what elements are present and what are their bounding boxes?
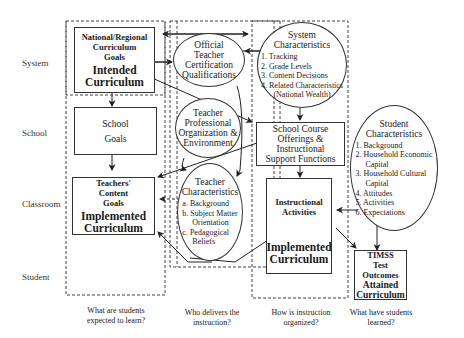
node-label: Implemented <box>266 241 331 253</box>
teacher-professional-organization-ellipse: Teacher Professional Organization & Envi… <box>175 98 241 158</box>
list-item: Orientation <box>182 218 237 228</box>
node-text: TIMSS <box>367 250 393 260</box>
row-label-classroom: Classroom <box>22 199 61 209</box>
list-item: a. Background <box>182 199 237 209</box>
list-item: Beliefs <box>182 237 237 247</box>
node-text: System <box>288 30 316 40</box>
node-text: Teachers' <box>96 178 131 188</box>
node-label: Curriculum <box>85 76 144 88</box>
node-text: Instructional <box>276 144 324 154</box>
system-characteristics-ellipse: System Characteristics 1. Tracking 2. Gr… <box>257 22 347 108</box>
node-text: Teacher <box>194 50 224 60</box>
node-text: Offerings & <box>278 134 324 144</box>
list-item: Capital <box>355 179 432 189</box>
node-text: Professional <box>185 118 232 128</box>
student-characteristics-list: 1. Background 2. Household Economic Capi… <box>355 141 432 218</box>
list-item: 4. Attitudes <box>355 189 432 199</box>
list-item: (National Wealth) <box>261 90 343 100</box>
list-item: 3. Household Cultural <box>355 169 432 179</box>
system-characteristics-list: 1. Tracking 2. Grade Levels 3. Content D… <box>261 52 343 100</box>
node-text: School Course <box>273 124 329 134</box>
timss-test-outcomes-box: TIMSS Test Outcomes Attained Curriculum <box>354 250 407 300</box>
row-label-student: Student <box>22 272 50 282</box>
list-item: 2. Grade Levels <box>261 62 343 72</box>
question-intended: What are students expected to learn? <box>78 306 154 326</box>
node-text: School <box>102 119 128 129</box>
teachers-content-goals-box: Teachers' Content Goals Implemented Curr… <box>72 177 155 235</box>
node-text: Certification <box>185 60 233 70</box>
node-label: Intended <box>92 64 136 76</box>
list-item: 2. Household Economic <box>355 150 432 160</box>
node-text: Instructional <box>275 197 322 207</box>
node-text: Characteristics <box>274 40 330 50</box>
list-item: 6. Expectations <box>355 208 432 218</box>
node-text: Characteristics <box>366 129 422 139</box>
node-text: Goals <box>104 52 125 62</box>
node-label: Curriculum <box>270 253 329 265</box>
node-text: Test <box>373 260 388 270</box>
list-item: 5. Activities <box>355 198 432 208</box>
node-text: Goals <box>104 134 126 144</box>
node-text: Organization & <box>178 128 237 138</box>
node-label: Curriculum <box>84 222 143 234</box>
question-organized: How is instruction organized? <box>266 308 336 328</box>
instructional-activities-box: Instructional Activities Implemented Cur… <box>266 178 332 274</box>
node-text: Environment <box>183 138 233 148</box>
node-text: Characteristics <box>182 187 238 197</box>
node-text: Support Functions <box>266 154 336 164</box>
list-item: b. Subject Matter <box>182 209 237 219</box>
school-goals-box: School Goals <box>74 107 157 155</box>
official-teacher-certification-ellipse: Official Teacher Certification Qualifica… <box>173 33 245 87</box>
list-item: 1. Background <box>355 141 432 151</box>
list-item: 4. Related Characteristics <box>261 81 343 91</box>
node-label: Attained <box>363 280 398 290</box>
node-text: Curriculum <box>93 42 136 52</box>
list-item: 1. Tracking <box>261 52 343 62</box>
list-item: 3. Content Decisions <box>261 71 343 81</box>
node-text: Student <box>379 119 408 129</box>
national-curriculum-goals-box: National/Regional Curriculum Goals Inten… <box>74 27 155 93</box>
question-delivers: Who delivers the instruction? <box>178 308 246 328</box>
school-course-offerings-box: School Course Offerings & Instructional … <box>256 122 345 166</box>
student-characteristics-ellipse: Student Characteristics 1. Background 2.… <box>350 105 438 231</box>
node-text: Official <box>194 40 223 50</box>
node-text: Activities <box>282 207 316 217</box>
teacher-characteristics-ellipse: Teacher Characteristics a. Background b.… <box>177 163 243 261</box>
node-text: Qualifications <box>182 70 236 80</box>
question-learned: What have students learned? <box>348 308 414 328</box>
node-text: Content <box>99 188 128 198</box>
node-text: Teacher <box>195 177 225 187</box>
teacher-characteristics-list: a. Background b. Subject Matter Orientat… <box>182 199 237 247</box>
list-item: Capital <box>355 160 432 170</box>
node-label: Curriculum <box>356 290 405 300</box>
node-label: Implemented <box>81 210 146 222</box>
node-text: National/Regional <box>82 32 148 42</box>
row-label-system: System <box>22 58 49 68</box>
node-text: Goals <box>103 198 124 208</box>
list-item: c. Pedagogical <box>182 228 237 238</box>
node-text: Outcomes <box>362 270 398 280</box>
node-text: Teacher <box>193 108 223 118</box>
row-label-school: School <box>22 128 47 138</box>
